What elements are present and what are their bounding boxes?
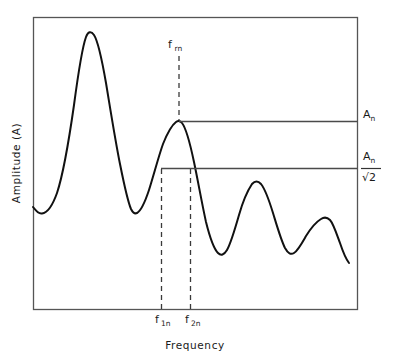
y-axis-title: Amplitude (A)	[10, 123, 22, 203]
peak-amplitude-label-subscript: n	[371, 114, 376, 123]
lower-half-power-label: f	[155, 313, 160, 326]
chart-svg: f rn f 1n f 2n A n A n √2 Amplitude (A) …	[0, 0, 393, 357]
resonance-frequency-label: f	[168, 38, 173, 51]
half-power-amplitude-denominator: √2	[362, 171, 376, 184]
resonance-frequency-label-subscript: rn	[175, 44, 183, 53]
plot-frame	[34, 18, 358, 310]
amplitude-response-curve	[33, 32, 349, 263]
upper-half-power-label: f	[185, 313, 190, 326]
frequency-response-figure: f rn f 1n f 2n A n A n √2 Amplitude (A) …	[0, 0, 393, 357]
x-axis-title: Frequency	[165, 339, 225, 351]
lower-half-power-label-subscript: 1n	[161, 319, 171, 328]
half-power-amplitude-numerator-subscript: n	[371, 156, 376, 165]
upper-half-power-label-subscript: 2n	[191, 319, 201, 328]
